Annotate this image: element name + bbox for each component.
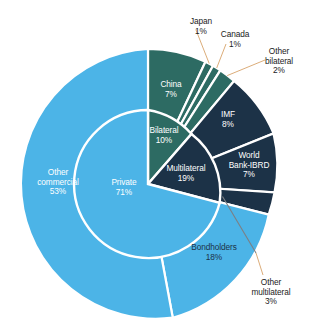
label-multilateral: Multilateral 19% — [155, 164, 217, 183]
label-bondholders: Bondholders 18% — [180, 243, 248, 262]
label-other-bilateral-value: 2% — [252, 66, 306, 76]
label-bilateral: Bilateral 10% — [137, 126, 191, 145]
label-imf-value: 8% — [208, 120, 248, 130]
label-other-commercial-value: 53% — [25, 187, 91, 197]
pie-chart-figure: Japan 1% Canada 1% Other bilateral 2% Ch… — [0, 0, 311, 331]
label-other-commercial: Other commercial 53% — [25, 168, 91, 197]
clipped-header-artifact — [18, 0, 136, 4]
leader-line-other-multilateral-lower — [256, 253, 263, 275]
label-bilateral-value: 10% — [137, 136, 191, 146]
label-world-bank-value: 7% — [218, 170, 280, 180]
label-other-multilateral-value: 3% — [238, 297, 304, 307]
label-china: China 7% — [149, 80, 193, 99]
label-other-bilateral: Other bilateral 2% — [252, 47, 306, 76]
label-private-value: 71% — [100, 188, 148, 198]
label-bondholders-value: 18% — [180, 253, 248, 263]
label-world-bank-ibrd: World Bank-IBRD 7% — [218, 151, 280, 180]
label-multilateral-value: 19% — [155, 174, 217, 184]
label-china-value: 7% — [149, 90, 193, 100]
label-other-multilateral: Other multilateral 3% — [238, 278, 304, 307]
label-private: Private 71% — [100, 178, 148, 197]
label-imf: IMF 8% — [208, 110, 248, 129]
